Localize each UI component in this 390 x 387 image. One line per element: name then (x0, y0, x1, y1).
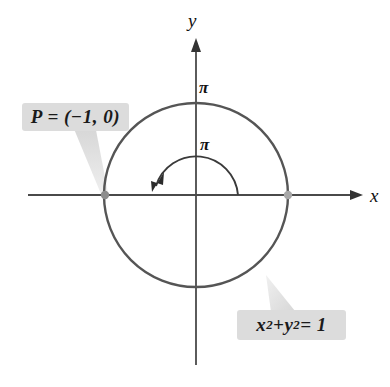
y-axis-arrowhead (191, 38, 201, 52)
angle-arc (156, 156, 238, 195)
equation-equals-one: = 1 (300, 314, 327, 336)
equation-y-exponent: 2 (293, 317, 300, 333)
point-p-marker (101, 191, 109, 199)
y-axis-label: y (188, 10, 196, 32)
arc-length-pi-label: π (199, 78, 208, 98)
leader-line-equation (266, 275, 295, 312)
equation-x-term: x (256, 314, 266, 336)
point-p-callout: P = (−1, 0) (22, 103, 129, 131)
x-axis-arrowhead (350, 190, 363, 200)
leader-line-p (74, 129, 108, 194)
point-start-marker (284, 191, 292, 199)
equation-y-term: y (284, 314, 293, 336)
angle-pi-label: π (200, 135, 209, 155)
x-axis-label: x (370, 185, 378, 207)
circle-equation-callout: x2 + y2 = 1 (237, 310, 346, 340)
equation-x-exponent: 2 (266, 317, 273, 333)
equation-plus-sign: + (273, 314, 284, 336)
